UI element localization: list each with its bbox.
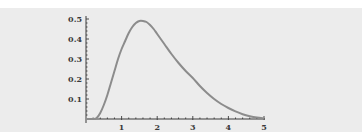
density-chart: 12345 0.10.20.30.40.5 xyxy=(0,0,362,138)
y-tick-label: 0.2 xyxy=(68,74,82,84)
y-tick-label: 0.1 xyxy=(68,94,82,104)
x-tick-label: 3 xyxy=(190,122,196,132)
x-tick-label: 1 xyxy=(119,122,125,132)
y-axis-tick-labels: 0.10.20.30.40.5 xyxy=(68,14,82,104)
x-tick-label: 5 xyxy=(261,122,267,132)
y-tick-label: 0.5 xyxy=(68,14,82,24)
density-curve xyxy=(86,21,264,119)
y-tick-label: 0.3 xyxy=(68,54,82,64)
x-tick-label: 2 xyxy=(154,122,160,132)
y-tick-label: 0.4 xyxy=(68,34,82,44)
axes xyxy=(86,16,265,123)
x-axis-tick-labels: 12345 xyxy=(119,122,267,132)
x-tick-label: 4 xyxy=(226,122,232,132)
